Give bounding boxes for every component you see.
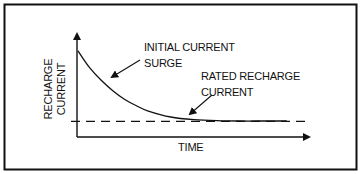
y-axis-label-line-1: RECHARGE (42, 59, 54, 120)
rated-recharge-label-line2: CURRENT (201, 86, 254, 98)
recharge-current-diagram: INITIAL CURRENT SURGE RATED RECHARGE CUR… (0, 0, 360, 174)
rated-recharge-label-line1: RATED RECHARGE (201, 70, 300, 82)
initial-surge-label-line1: INITIAL CURRENT (144, 41, 235, 53)
y-axis-label: RECHARGECURRENT (42, 59, 67, 120)
initial-surge-label-line2: SURGE (144, 57, 182, 69)
y-axis-label-line-2: CURRENT (55, 62, 67, 115)
x-axis-label: TIME (178, 141, 203, 153)
